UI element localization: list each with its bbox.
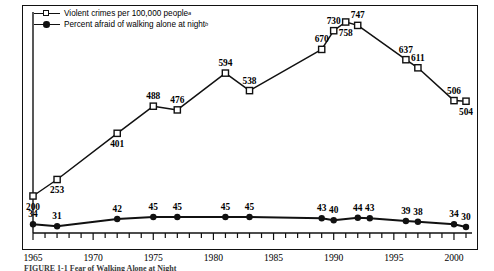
x-tick-label-1975: 1975: [144, 252, 163, 263]
filled-circle-icon: [34, 19, 60, 30]
data-label-percent-1975: 45: [149, 202, 158, 212]
data-label-percent-1989: 43: [317, 203, 326, 213]
data-label-percent-1996: 39: [401, 206, 410, 216]
data-label-crimes-1981: 594: [218, 58, 232, 68]
x-tick-label-1995: 1995: [384, 252, 403, 263]
chart-plot: [0, 0, 494, 271]
chart-legend: Violent crimes per 100,000 peoplea Perce…: [34, 8, 208, 30]
x-tick-label-2000: 2000: [444, 252, 463, 263]
x-tick-label-1990: 1990: [324, 252, 343, 263]
data-label-crimes-1975: 488: [146, 91, 160, 101]
legend-superscript-a: a: [188, 8, 191, 19]
x-tick-label-1980: 1980: [204, 252, 223, 263]
data-label-crimes-1972: 401: [110, 139, 124, 149]
data-label-percent-1983: 45: [245, 202, 254, 212]
data-label-crimes-1992: 747: [351, 10, 365, 20]
figure-caption: FIGURE 1-1 Fear of Walking Alone at Nigh…: [24, 264, 484, 271]
data-label-percent-1992: 44: [353, 203, 362, 213]
data-label-crimes-1990: 730: [327, 16, 341, 26]
data-label-crimes-2000: 506: [447, 86, 461, 96]
data-label-crimes-1989: 670: [315, 34, 329, 44]
legend-item-violent-crimes: Violent crimes per 100,000 peoplea: [34, 8, 208, 19]
data-label-crimes-1983: 538: [242, 76, 256, 86]
open-square-icon: [34, 8, 60, 19]
x-tick-label-1965: 1965: [23, 252, 42, 263]
data-label-percent-1967: 31: [52, 211, 61, 221]
data-label-percent-1981: 45: [221, 202, 230, 212]
data-label-percent-1997: 38: [413, 207, 422, 217]
x-tick-label-1985: 1985: [264, 252, 283, 263]
data-label-percent-1977: 45: [173, 202, 182, 212]
data-label-crimes-1991: 758: [339, 28, 353, 38]
legend-item-percent-afraid: Percent afraid of walking alone at night…: [34, 19, 208, 30]
data-label-crimes-1967: 253: [50, 185, 64, 195]
data-label-crimes-1997: 611: [411, 53, 425, 63]
data-label-crimes-2001: 504: [459, 107, 473, 117]
legend-label-percent-afraid: Percent afraid of walking alone at night: [64, 19, 205, 30]
x-tick-label-1970: 1970: [84, 252, 103, 263]
data-label-percent-2001: 30: [461, 212, 470, 222]
legend-superscript-b: b: [205, 19, 208, 30]
data-label-percent-2000: 34: [449, 209, 458, 219]
data-label-percent-1972: 42: [113, 204, 122, 214]
figure: Violent crimes per 100,000 peoplea Perce…: [0, 0, 494, 271]
data-label-percent-1965: 34: [28, 209, 37, 219]
legend-label-violent-crimes: Violent crimes per 100,000 people: [64, 8, 188, 19]
data-label-crimes-1977: 476: [170, 95, 184, 105]
data-label-percent-1990: 40: [329, 205, 338, 215]
data-label-percent-1993: 43: [365, 203, 374, 213]
